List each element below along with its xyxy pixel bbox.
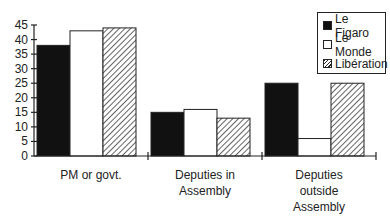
bar-lib-ration-1: [217, 118, 250, 156]
legend-label: Le Monde: [335, 31, 385, 59]
bar-le-monde-2: [298, 139, 331, 156]
empty-swatch-icon: [323, 40, 332, 49]
y-tick-label: 25: [15, 76, 29, 90]
y-tick-label: 35: [15, 47, 29, 61]
bar-le-monde-0: [70, 31, 103, 156]
y-tick-label: 30: [15, 62, 29, 76]
legend-item-le-monde: Le Monde: [323, 35, 385, 54]
y-tick-label: 10: [15, 120, 29, 134]
bar-le-figaro-0: [37, 45, 70, 156]
y-tick-label: 45: [15, 18, 29, 32]
x-category-label: PM or govt.: [60, 168, 121, 182]
y-axis: 051015202530354045: [15, 18, 37, 163]
x-category-label: Assembly: [179, 184, 231, 198]
bar-le-figaro-1: [151, 112, 184, 156]
bar-le-figaro-2: [265, 83, 298, 156]
y-tick-label: 15: [15, 105, 29, 119]
solid-swatch-icon: [323, 21, 332, 30]
bars: [37, 28, 364, 156]
y-tick-label: 0: [21, 149, 28, 163]
y-tick-label: 20: [15, 91, 29, 105]
x-category-label: Assembly: [293, 200, 345, 214]
y-tick-label: 5: [21, 134, 28, 148]
bar-le-monde-1: [184, 109, 217, 156]
x-category-label: outside: [300, 184, 339, 198]
x-axis: PM or govt.Deputies inAssemblyDeputiesou…: [34, 152, 376, 214]
bar-lib-ration-2: [331, 83, 364, 156]
x-category-label: Deputies in: [175, 168, 235, 182]
legend-label: Libération: [335, 57, 388, 71]
legend-item-liberation: Libération: [323, 54, 385, 73]
hatch-swatch-icon: [323, 59, 332, 68]
y-tick-label: 40: [15, 33, 29, 47]
x-category-label: Deputies: [295, 168, 342, 182]
bar-lib-ration-0: [103, 28, 136, 156]
legend: Le Figaro Le Monde Libération: [317, 12, 386, 74]
